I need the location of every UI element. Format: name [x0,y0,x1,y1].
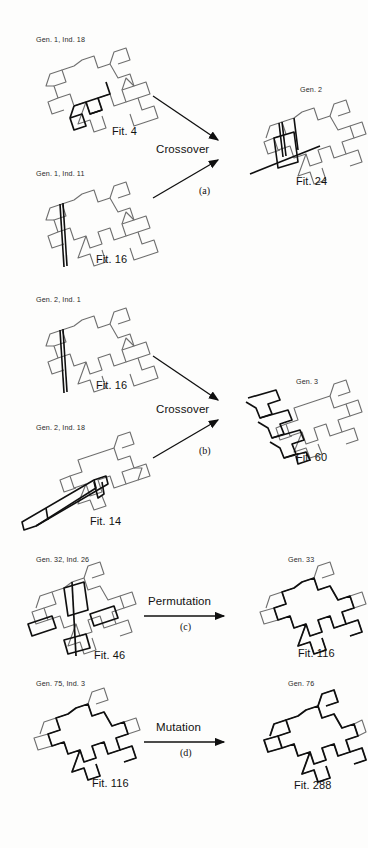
sub-label-a: (a) [199,186,210,196]
arrow-a-top [153,96,218,140]
fit-label-c-parent: Fit. 46 [94,650,125,661]
gen-label-d-parent: Gen. 75, Ind. 3 [36,680,85,687]
gen-label-b-parent-1: Gen. 2, Ind. 1 [36,296,81,303]
gen-label-c-child: Gen. 33 [288,556,314,563]
polyomino-c-parent [14,566,164,668]
gen-label-d-child: Gen. 76 [288,680,314,687]
gen-label-b-child: Gen. 3 [296,378,318,385]
polyomino-b-child [246,386,366,486]
fit-label-d-parent: Fit. 116 [92,778,129,789]
fit-label-d-child: Fit. 288 [294,780,332,791]
operator-label-b: Crossover [156,404,209,416]
operator-label-d: Mutation [156,722,201,734]
operator-label-a: Crossover [156,144,209,156]
operator-label-c: Permutation [148,596,211,608]
fit-label-a-parent-1: Fit. 4 [112,126,137,137]
gen-label-a-parent-2: Gen. 1, Ind. 11 [36,170,85,177]
fit-label-a-parent-2: Fit. 16 [96,254,127,265]
fit-label-b-parent-1: Fit. 16 [96,380,127,391]
sub-label-d: (d) [180,748,192,758]
fit-label-a-child: Fit. 24 [296,176,327,187]
fit-label-b-child: Fit. 60 [296,452,327,463]
gen-label-b-parent-2: Gen. 2, Ind. 18 [36,424,85,431]
polyomino-d-parent [14,690,164,796]
gen-label-a-child: Gen. 2 [300,86,322,93]
fit-label-b-parent-2: Fit. 14 [90,516,121,527]
sub-label-b: (b) [199,446,211,456]
gen-label-a-parent-1: Gen. 1, Ind. 18 [36,36,85,43]
arrow-b-top [153,356,218,400]
sub-label-c: (c) [180,622,191,632]
gen-label-c-parent: Gen. 32, Ind. 26 [36,556,89,563]
fit-label-c-child: Fit. 116 [298,648,335,659]
